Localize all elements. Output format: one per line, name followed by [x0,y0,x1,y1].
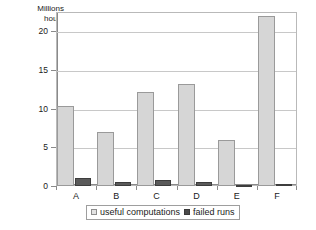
x-axis-label-F: F [257,191,297,201]
x-tick-mark-B [96,186,97,190]
legend-label-useful-computations: useful computations [100,207,180,217]
y-tick-mark-5 [51,147,56,148]
legend-swatch-icon-useful-computations [91,209,97,215]
legend-item-failed-runs: failed runs [184,207,235,217]
x-tick-mark-F [257,186,258,190]
y-tick-label-0: 0 [14,181,48,191]
legend-swatch-icon-failed-runs [184,209,190,215]
x-axis-label-A: A [56,191,96,201]
x-axis-label-E: E [217,191,257,201]
y-tick-mark-20 [51,31,56,32]
y-tick-mark-15 [51,70,56,71]
x-axis-label-C: C [136,191,176,201]
bar-useful-computations-C [137,92,154,186]
y-tick-label-5: 5 [14,142,48,152]
bar-chart: Millions hours 05101520ABCDEF useful com… [0,0,316,230]
legend-item-useful-computations: useful computations [91,207,180,217]
bar-failed-runs-E [236,185,252,187]
y-tick-label-20: 20 [14,26,48,36]
bar-useful-computations-A [57,106,74,186]
bar-failed-runs-D [196,182,212,186]
x-tick-mark-end [296,186,297,190]
bar-useful-computations-E [218,140,235,187]
x-axis-label-B: B [96,191,136,201]
bar-failed-runs-C [155,180,171,186]
y-tick-mark-10 [51,109,56,110]
legend-label-failed-runs: failed runs [193,207,235,217]
bar-useful-computations-D [178,84,195,186]
bar-failed-runs-B [115,182,131,186]
bar-failed-runs-F [276,184,292,186]
x-tick-mark-E [217,186,218,190]
x-axis-label-D: D [177,191,217,201]
bar-useful-computations-B [97,132,114,186]
x-tick-mark-D [177,186,178,190]
x-tick-mark-A [56,186,57,190]
x-tick-mark-C [136,186,137,190]
bar-useful-computations-F [258,16,275,187]
chart-legend: useful computations failed runs [86,205,240,220]
y-tick-label-15: 15 [14,65,48,75]
y-tick-label-10: 10 [14,104,48,114]
bar-failed-runs-A [75,178,91,186]
